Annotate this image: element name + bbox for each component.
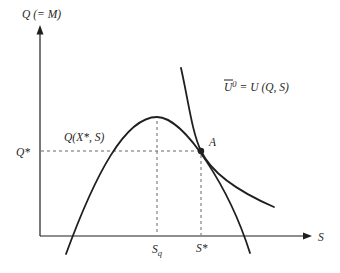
- economics-tangency-graph: Q (= M) S Q* Q(X*, S) A U0= U (Q, S) Sq …: [0, 0, 340, 273]
- s-q-subscript: q: [158, 248, 163, 258]
- figure-canvas: Q (= M) S Q* Q(X*, S) A U0= U (Q, S) Sq …: [0, 0, 340, 273]
- y-axis-arrow: [37, 25, 44, 35]
- q-star-label: Q*: [16, 146, 30, 158]
- a-point-label: A: [208, 136, 217, 148]
- u-bar-label: U0= U (Q, S): [224, 79, 289, 95]
- tangency-point-a: [198, 148, 204, 154]
- x-axis-label: S: [318, 231, 324, 243]
- s-q-label: Sq: [152, 243, 163, 258]
- s-star-label: S*: [196, 242, 208, 254]
- x-axis-arrow: [303, 233, 312, 240]
- u-bar-superscript: 0: [232, 79, 237, 89]
- u-bar-rest: = U (Q, S): [240, 81, 289, 94]
- y-axis-label: Q (= M): [22, 8, 61, 21]
- q-curve-label: Q(X*, S): [64, 131, 104, 144]
